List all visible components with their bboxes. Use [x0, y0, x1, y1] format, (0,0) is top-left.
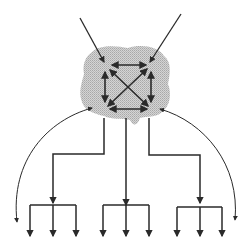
arc-right	[160, 109, 235, 220]
branch-left	[53, 118, 104, 203]
tree-right	[177, 207, 222, 236]
network-diagram	[0, 0, 249, 249]
tree-middle	[103, 205, 149, 236]
branch-right	[149, 118, 200, 203]
inbound-arrow-right	[150, 14, 181, 62]
leaf-trees	[30, 205, 222, 236]
tree-left	[30, 205, 76, 236]
branch-connectors	[53, 118, 200, 205]
